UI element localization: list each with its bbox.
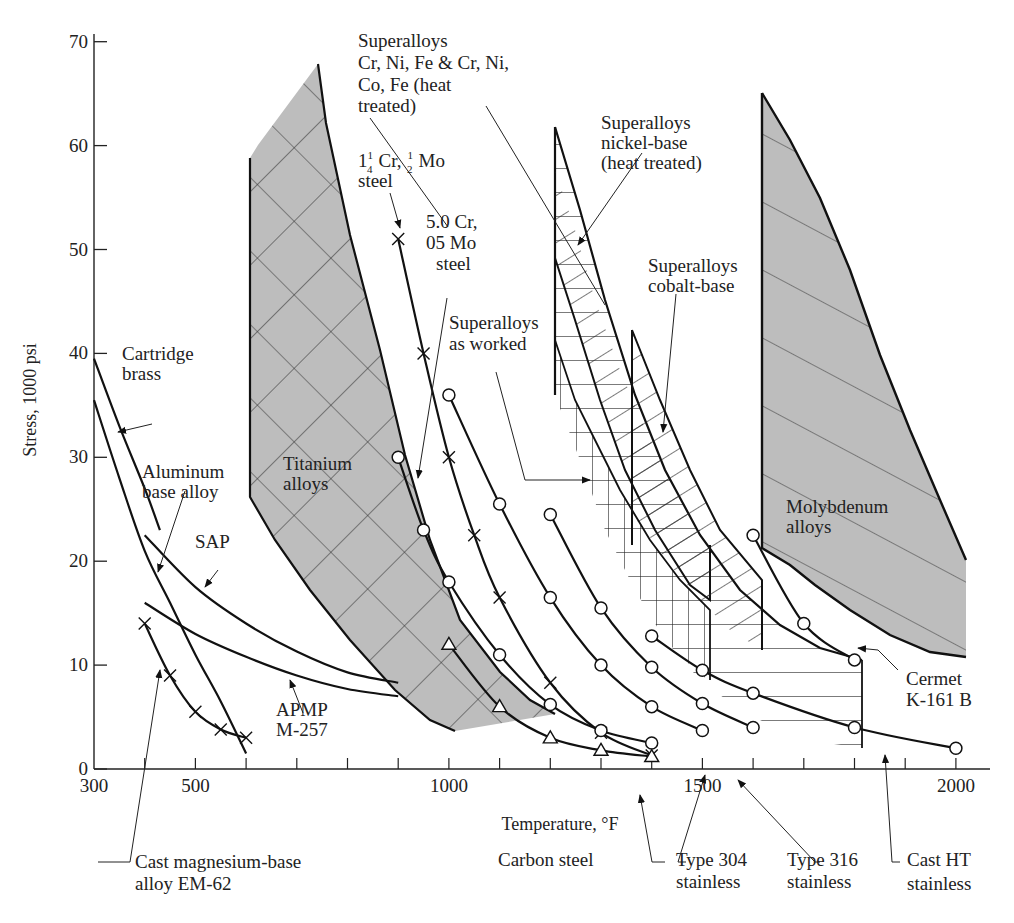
label-magnesium: Cast magnesium-basealloy EM-62 <box>135 851 301 894</box>
x-tick-label: 1000 <box>430 775 468 796</box>
label-superalloys-crnife: SuperalloysCr, Ni, Fe & Cr, Ni,Co, Fe (h… <box>358 30 509 117</box>
y-tick-label: 10 <box>69 654 88 675</box>
label-cermet: CermetK-161 B <box>906 668 972 710</box>
y-axis-title: Stress, 1000 psi <box>20 343 40 457</box>
label-carbon-steel: Carbon steel <box>498 849 594 870</box>
series-aluminum-base-alloy <box>94 400 246 753</box>
series-cast-magnesium-base-alloy-em-62 <box>139 618 252 744</box>
label-apmp: APMPM-257 <box>276 699 328 740</box>
label-sap: SAP <box>195 531 230 552</box>
region-molybdenum-alloys <box>762 93 966 657</box>
y-tick-label: 60 <box>69 135 88 156</box>
y-tick-label: 30 <box>69 446 88 467</box>
y-tick-label: 40 <box>69 342 88 363</box>
label-superalloys-cobalt: Superalloyscobalt-base <box>648 255 738 296</box>
label-aluminum: Aluminumbase alloy <box>142 461 225 502</box>
label-superalloys-worked: Superalloysas worked <box>449 312 539 354</box>
y-tick-label: 20 <box>69 550 88 571</box>
label-superalloys-nickel: Superalloysnickel-base(heat treated) <box>601 112 702 174</box>
label-cartridge-brass: Cartridgebrass <box>122 343 194 384</box>
x-tick-label: 300 <box>80 775 109 796</box>
x-tick-label: 2000 <box>937 775 975 796</box>
label-cast-ht: Cast HTstainless <box>907 849 971 894</box>
x-tick-label: 1500 <box>683 775 721 796</box>
x-tick-label: 500 <box>181 775 210 796</box>
label-crmo-5: 5.0 Cr,05 Mosteel <box>426 211 478 274</box>
label-crmo-1: 114Cr,12Mosteel <box>358 149 445 191</box>
x-ticks: 300500100015002000 <box>80 758 975 796</box>
label-type316: Type 316stainless <box>787 849 858 892</box>
label-type304: Type 304stainless <box>676 849 747 892</box>
y-tick-label: 50 <box>69 239 88 260</box>
x-axis-title: Temperature, °F <box>502 814 619 834</box>
creep-stress-chart: 010203040506070 300500100015002000 Tempe… <box>0 0 1014 923</box>
y-tick-label: 70 <box>69 31 88 52</box>
y-ticks: 010203040506070 <box>69 31 107 779</box>
